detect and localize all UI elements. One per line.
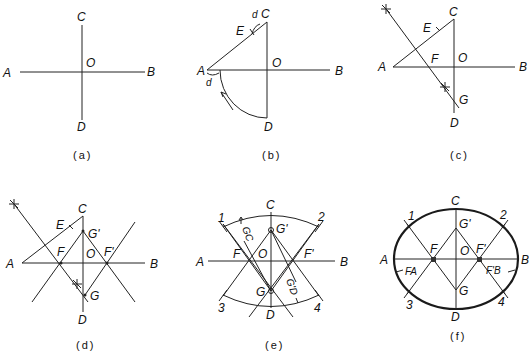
- tick-3: [219, 290, 227, 301]
- label-E: E: [236, 24, 245, 38]
- arrow-GpD-icon: [296, 298, 298, 303]
- label-C: C: [261, 7, 270, 21]
- label-D: D: [266, 308, 275, 322]
- label-G: G: [459, 93, 468, 107]
- d-mark-lower: [207, 73, 219, 75]
- panel-c: A B C D O E F G (c): [377, 4, 527, 161]
- label-C: C: [77, 10, 86, 24]
- label-3: 3: [218, 301, 225, 315]
- label-O: O: [458, 51, 467, 65]
- label-F: F: [57, 245, 65, 259]
- arc-cross-lower-icon: [440, 82, 450, 92]
- label-A: A: [5, 257, 14, 271]
- label-B: B: [340, 255, 348, 269]
- dimension-FpB-arrow: [508, 270, 515, 272]
- E-tick: [436, 27, 440, 31]
- panel-b: A B C D O E d d (b): [196, 7, 343, 161]
- label-O: O: [258, 247, 267, 261]
- panel-d: A B C D O E F F' G' G (d): [5, 199, 158, 351]
- label-F: F: [431, 52, 439, 66]
- label-FpB: F'B: [486, 265, 501, 276]
- arc-cross-lower-icon: [72, 279, 82, 289]
- line-AC: [22, 216, 83, 263]
- label-A: A: [2, 66, 11, 80]
- label-B: B: [519, 60, 527, 74]
- label-C: C: [449, 5, 458, 19]
- label-A: A: [379, 253, 388, 267]
- label-O: O: [272, 56, 281, 70]
- label-D: D: [78, 313, 87, 327]
- label-2: 2: [499, 208, 507, 222]
- label-Gp: G': [88, 227, 100, 241]
- tick-4: [315, 290, 323, 301]
- label-Fp: F': [476, 242, 486, 256]
- label-Fp: F': [304, 247, 314, 261]
- panel-e: A B C D O F F' G' G 1 2 3 4 GC G'D (e): [195, 198, 348, 351]
- label-O: O: [460, 244, 469, 258]
- arc-AO-to-D: [220, 70, 267, 118]
- label-d-upper: d: [252, 9, 258, 20]
- label-B: B: [335, 64, 343, 78]
- label-B: B: [147, 65, 155, 79]
- label-G: G: [459, 284, 468, 298]
- label-D: D: [264, 120, 273, 134]
- label-D: D: [450, 116, 459, 130]
- caption-b: (b): [262, 149, 281, 161]
- caption-d: (d): [76, 339, 95, 351]
- point-F: [60, 262, 63, 265]
- label-B: B: [150, 257, 158, 271]
- label-D: D: [451, 310, 460, 324]
- label-F: F: [233, 247, 241, 261]
- point-G: [84, 294, 87, 297]
- panel-a: A B C D O (a): [2, 10, 155, 161]
- label-F: F: [430, 242, 438, 256]
- label-A: A: [377, 60, 386, 74]
- arc-cross-upper-icon: [9, 199, 19, 209]
- caption-c: (c): [450, 149, 469, 161]
- label-E: E: [423, 21, 432, 35]
- label-B: B: [521, 253, 529, 267]
- arc-cross-upper-icon: [381, 4, 391, 14]
- label-O: O: [86, 56, 95, 70]
- panel-f: A B C D O F F' G' G 1 2 3 4 FA F'B (f): [379, 194, 529, 342]
- label-E: E: [56, 218, 65, 232]
- line-Gp-F: [32, 231, 83, 302]
- label-D: D: [77, 120, 86, 134]
- label-G: G: [256, 285, 265, 299]
- label-C: C: [451, 194, 460, 208]
- label-Fp: F': [104, 245, 114, 259]
- label-GC: GC: [240, 225, 256, 244]
- label-O: O: [86, 247, 95, 261]
- caption-a: (a): [73, 149, 92, 161]
- label-A: A: [196, 64, 205, 78]
- dimension-FA-arrow: [396, 270, 403, 272]
- label-Gp: G': [459, 217, 471, 231]
- point-Gp: [82, 230, 85, 233]
- label-4: 4: [498, 295, 505, 309]
- label-FA: FA: [405, 266, 417, 277]
- label-C: C: [78, 202, 87, 216]
- caption-e: (e): [265, 339, 284, 351]
- ellipse-construction-diagram: A B C D O (a) A B C D O E d d (b) A: [0, 0, 529, 353]
- label-G: G: [90, 289, 99, 303]
- label-Gp: G': [276, 222, 288, 236]
- label-C: C: [266, 198, 275, 212]
- label-4: 4: [314, 301, 321, 315]
- center-Fp: [477, 257, 482, 262]
- caption-f: (f): [450, 330, 466, 342]
- label-d-lower: d: [206, 77, 212, 88]
- label-A: A: [195, 255, 204, 269]
- label-2: 2: [317, 210, 325, 224]
- label-1: 1: [218, 211, 225, 225]
- label-1: 1: [408, 209, 415, 223]
- center-F: [431, 257, 436, 262]
- label-3: 3: [406, 298, 413, 312]
- point-Fp: [106, 262, 109, 265]
- label-GpD: G'D: [284, 277, 300, 297]
